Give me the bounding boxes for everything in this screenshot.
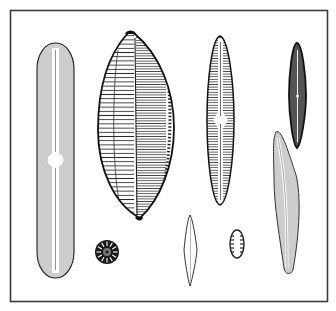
diatom-long-rod (37, 43, 74, 278)
diatom-dark-lanceolate (289, 43, 306, 148)
diatom-centric-disc (95, 240, 119, 264)
diatom-narrow-navicula (207, 36, 234, 205)
diatom-small-spindle (184, 215, 197, 286)
diatom-small-oval (230, 230, 244, 258)
diatom-curved (272, 128, 302, 276)
diatom-large-boat (98, 32, 174, 220)
diatom-illustration-plate (0, 0, 336, 311)
